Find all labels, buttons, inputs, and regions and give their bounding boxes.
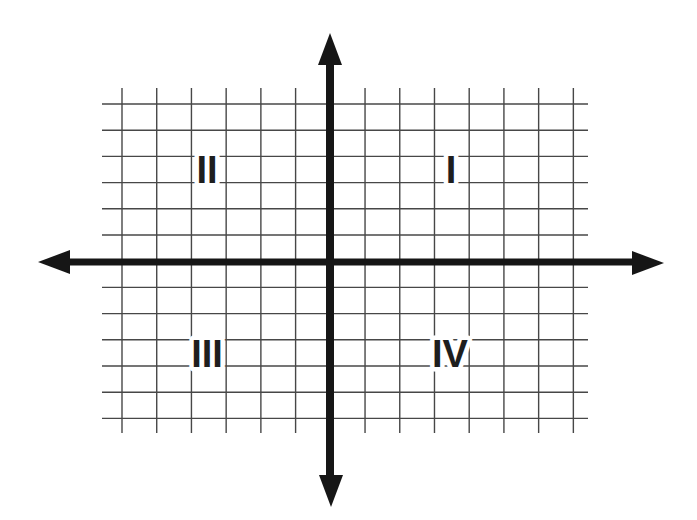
- quadrant-label-ii: II: [196, 149, 217, 191]
- quadrant-label-iii: III: [191, 333, 223, 375]
- y-axis-down-arrow-icon: [319, 475, 343, 507]
- y-axis-up-arrow-icon: [318, 33, 342, 65]
- figure-canvas: IIIIIIIV: [0, 0, 697, 520]
- quadrant-label-iv: IV: [432, 333, 469, 375]
- coordinate-plane: IIIIIIIV: [0, 0, 697, 520]
- x-axis-left-arrow-icon: [38, 250, 70, 274]
- x-axis-right-arrow-icon: [632, 251, 664, 275]
- quadrant-label-i: I: [446, 149, 457, 191]
